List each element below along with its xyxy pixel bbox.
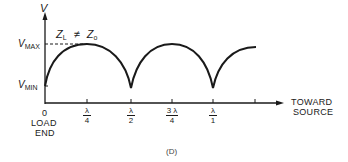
load-label-line2: END [35,128,55,138]
tick-label-full-lambda: λ1 [203,106,223,125]
figure-caption: (D) [166,147,177,157]
zl-symbol: Z [56,28,63,40]
zo-subscript: o [94,34,98,41]
x-axis-arrow-icon [276,101,284,106]
zo-symbol: Z [87,28,94,40]
vmin-label: VMIN [18,80,38,93]
load-label-line1: LOAD [31,118,57,128]
condition-label: ZL ≠ Zo [56,29,97,43]
y-axis-label: V [40,3,47,13]
direction-label-line1: TOWARD [291,97,332,107]
vmax-subscript: MAX [25,43,40,50]
tick-label-three-quarter-lambda: 3 λ4 [162,106,182,125]
voltage-curve [45,44,256,88]
vmin-subscript: MIN [25,84,38,91]
tick-label-quarter-lambda: λ4 [77,106,97,125]
tick-label-half-lambda: λ2 [121,106,141,125]
zl-subscript: L [63,34,67,41]
not-equal-symbol: ≠ [74,28,80,40]
vmax-label: VMAX [18,39,40,52]
direction-label-line2: SOURCE [293,107,333,117]
origin-label: 0 [42,108,47,118]
